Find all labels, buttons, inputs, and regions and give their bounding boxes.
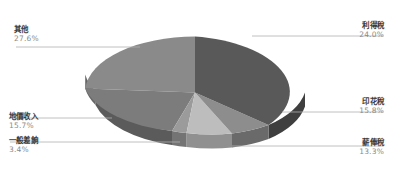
callout-general-rates-value: 3.4% [9, 146, 38, 154]
callout-land-revenue-value: 15.7% [9, 122, 38, 130]
pie-side-general-rates [172, 131, 187, 147]
callout-other-value: 27.6% [14, 35, 39, 43]
callout-salaries-tax-label: 薪俸稅 [359, 139, 384, 147]
pie-side-stamp-duty [187, 133, 233, 149]
pie-chart-graphic [0, 0, 393, 177]
callout-general-rates-label: 一般差餉 [9, 137, 38, 145]
pie-slice-other [85, 36, 195, 92]
pie-chart-figure: 其他 27.6% 地價收入 15.7% 一般差餉 3.4% 利得稅 24.0% … [0, 0, 393, 177]
callout-profits-tax-value: 24.0% [359, 31, 384, 39]
callout-land-revenue: 地價收入 15.7% [9, 113, 38, 131]
callout-salaries-tax-value: 13.3% [359, 148, 384, 156]
callout-land-revenue-label: 地價收入 [9, 113, 38, 121]
callout-general-rates: 一般差餉 3.4% [9, 137, 38, 155]
callout-stamp-duty-label: 印花稅 [359, 98, 384, 106]
callout-stamp-duty-value: 15.8% [359, 107, 384, 115]
callout-salaries-tax: 薪俸稅 13.3% [359, 139, 384, 157]
callout-profits-tax-label: 利得稅 [359, 22, 384, 30]
callout-other: 其他 27.6% [14, 26, 39, 44]
callout-other-label: 其他 [14, 26, 39, 34]
callout-profits-tax: 利得稅 24.0% [359, 22, 384, 40]
callout-stamp-duty: 印花稅 15.8% [359, 98, 384, 116]
